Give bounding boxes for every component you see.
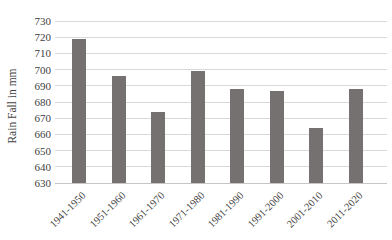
y-tick-720: 720 — [17, 31, 51, 43]
y-tick-680: 680 — [17, 96, 51, 108]
bar-2011-2020 — [349, 89, 363, 183]
y-tick-690: 690 — [17, 80, 51, 92]
y-tick-710: 710 — [17, 47, 51, 59]
bar-1951-1960 — [112, 76, 126, 183]
bar-1991-2000 — [270, 91, 284, 183]
gridline-640 — [55, 166, 387, 167]
y-tick-660: 660 — [17, 128, 51, 140]
gridline-690 — [55, 85, 387, 86]
gridline-730 — [55, 21, 387, 22]
y-tick-630: 630 — [17, 177, 51, 189]
y-tick-700: 700 — [17, 64, 51, 76]
bar-1971-1980 — [191, 71, 205, 183]
y-tick-670: 670 — [17, 112, 51, 124]
y-tick-650: 650 — [17, 145, 51, 157]
gridline-720 — [55, 37, 387, 38]
gridline-710 — [55, 53, 387, 54]
gridline-670 — [55, 118, 387, 119]
gridline-650 — [55, 150, 387, 151]
bar-1941-1950 — [72, 39, 86, 183]
bar-1981-1990 — [230, 89, 244, 183]
rainfall-bar-chart: Rain Fall in mm 730720710700690680670660… — [0, 0, 392, 240]
gridline-660 — [55, 134, 387, 135]
gridline-630 — [55, 183, 387, 184]
bar-2001-2010 — [309, 128, 323, 183]
y-tick-730: 730 — [17, 15, 51, 27]
gridline-700 — [55, 69, 387, 70]
gridline-680 — [55, 102, 387, 103]
bar-1961-1970 — [151, 112, 165, 183]
y-tick-640: 640 — [17, 161, 51, 173]
